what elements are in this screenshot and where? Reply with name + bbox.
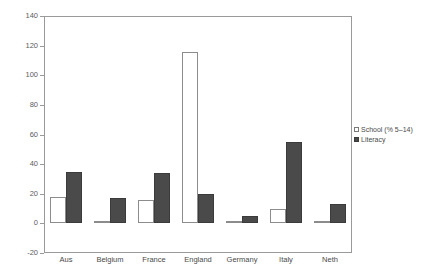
y-axis-tick-mark: [40, 253, 44, 254]
bar-chart: 140120100806040200-20 AusBelgiumFranceEn…: [0, 0, 430, 267]
x-axis-tick-label: Germany: [220, 255, 264, 264]
bar-school: [270, 209, 286, 224]
bar-literacy: [286, 142, 302, 223]
x-axis-tick-label: Belgium: [88, 255, 132, 264]
bars-layer: AusBelgiumFranceEnglandGermanyItalyNeth: [44, 16, 352, 253]
bar-group: [226, 16, 258, 253]
legend-item-school: School (% 5–14): [354, 125, 430, 134]
bar-literacy: [330, 204, 346, 223]
y-axis-tick-label: 80: [30, 100, 38, 110]
y-axis-tick-label: 60: [30, 130, 38, 140]
filled-square-marker-icon: [354, 137, 359, 142]
bar-literacy: [198, 194, 214, 224]
bar-group: [94, 16, 126, 253]
bar-school: [138, 200, 154, 224]
x-axis-tick-label: Neth: [308, 255, 352, 264]
x-axis-tick-label: France: [132, 255, 176, 264]
x-axis-tick-label: Aus: [44, 255, 88, 264]
bar-literacy: [242, 216, 258, 223]
bar-group: [50, 16, 82, 253]
y-axis: 140120100806040200-20: [0, 0, 44, 267]
bar-group: [314, 16, 346, 253]
y-axis-tick-label: 120: [25, 41, 38, 51]
x-axis-tick-label: Italy: [264, 255, 308, 264]
bar-school: [226, 221, 242, 223]
bar-group: [182, 16, 214, 253]
y-axis-tick-label: 100: [25, 70, 38, 80]
bar-literacy: [154, 173, 170, 223]
chart-legend: School (% 5–14) Literacy: [354, 125, 430, 145]
bar-school: [182, 52, 198, 224]
y-axis-tick-label: 0: [34, 218, 38, 228]
bar-literacy: [66, 172, 82, 224]
y-axis-tick-label: -20: [27, 248, 38, 258]
bar-school: [50, 197, 66, 224]
y-axis-tick-label: 140: [25, 11, 38, 21]
bar-school: [314, 221, 330, 223]
open-square-marker-icon: [354, 127, 359, 132]
legend-label-literacy: Literacy: [361, 135, 386, 144]
x-axis-tick-label: England: [176, 255, 220, 264]
bar-literacy: [110, 198, 126, 223]
y-axis-tick-label: 20: [30, 189, 38, 199]
bar-group: [270, 16, 302, 253]
legend-label-school: School (% 5–14): [361, 125, 413, 134]
y-axis-tick-label: 40: [30, 159, 38, 169]
legend-item-literacy: Literacy: [354, 135, 430, 144]
bar-group: [138, 16, 170, 253]
bar-school: [94, 221, 110, 223]
